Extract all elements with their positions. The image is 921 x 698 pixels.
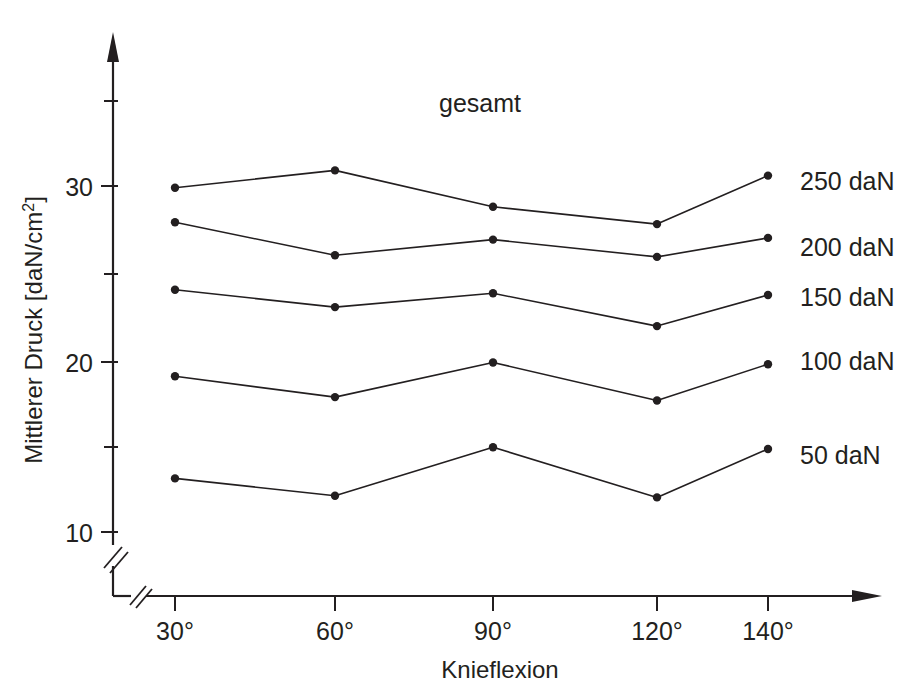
x-tick-label-60: 60° — [316, 617, 354, 645]
series-label-50-dan: 50 daN — [800, 441, 881, 469]
data-point — [653, 253, 661, 261]
data-point — [653, 493, 661, 501]
series-label-200-dan: 200 daN — [800, 233, 895, 261]
series-line-100-dan — [175, 363, 768, 401]
x-tick-label-140: 140° — [742, 617, 794, 645]
x-axis-ticks — [175, 596, 768, 611]
data-point — [171, 372, 179, 380]
y-tick-label-10: 10 — [65, 519, 93, 547]
x-tick-label-120: 120° — [631, 617, 683, 645]
data-point — [764, 291, 772, 299]
y-axis-arrowhead — [107, 32, 119, 62]
data-point — [489, 235, 497, 243]
series-line-200-dan — [175, 222, 768, 257]
y-axis-break-slash-1 — [104, 547, 122, 568]
data-point — [331, 166, 339, 174]
data-point — [171, 184, 179, 192]
series-line-150-dan — [175, 290, 768, 326]
x-tick-label-30: 30° — [156, 617, 194, 645]
chart-title: gesamt — [439, 89, 521, 117]
y-axis-ticks — [101, 101, 118, 532]
y-axis-title-superscript: 2 — [20, 203, 37, 212]
data-point — [331, 393, 339, 401]
x-axis — [113, 586, 882, 608]
data-point — [489, 289, 497, 297]
y-axis-title-main: Mittlerer Druck [daN/cm — [20, 212, 47, 464]
x-axis-arrowhead — [852, 590, 882, 602]
series-label-150-dan: 150 daN — [800, 283, 895, 311]
data-point — [331, 251, 339, 259]
data-point — [764, 171, 772, 179]
data-point — [653, 220, 661, 228]
x-axis-break-slash-1 — [130, 586, 146, 605]
y-axis-title-tail: ] — [20, 196, 47, 203]
x-tick-label-90: 90° — [474, 617, 512, 645]
data-point — [653, 322, 661, 330]
series-layer — [171, 166, 772, 501]
data-point — [764, 360, 772, 368]
data-point — [171, 474, 179, 482]
svg-text:Mittlerer Druck [daN/cm2]: Mittlerer Druck [daN/cm2] — [20, 196, 47, 464]
y-tick-label-30: 30 — [65, 173, 93, 201]
data-point — [764, 234, 772, 242]
series-label-100-dan: 100 daN — [800, 347, 895, 375]
y-axis-tick-labels: 30 20 10 — [65, 173, 93, 547]
y-axis-title: Mittlerer Druck [daN/cm2] — [20, 196, 47, 464]
data-point — [171, 286, 179, 294]
series-labels: 250 daN 200 daN 150 daN 100 daN 50 daN — [800, 167, 895, 469]
data-point — [764, 445, 772, 453]
series-line-50-dan — [175, 447, 768, 497]
data-point — [331, 303, 339, 311]
data-point — [489, 358, 497, 366]
y-tick-label-20: 20 — [65, 349, 93, 377]
chart-page: 30 20 10 30° 60° 90° 120° 140° Knieflexi… — [0, 0, 921, 698]
line-chart: 30 20 10 30° 60° 90° 120° 140° Knieflexi… — [0, 0, 921, 698]
data-point — [653, 396, 661, 404]
x-axis-tick-labels: 30° 60° 90° 120° 140° — [156, 617, 794, 645]
data-point — [331, 492, 339, 500]
series-label-250-dan: 250 daN — [800, 167, 895, 195]
data-point — [489, 203, 497, 211]
data-point — [171, 218, 179, 226]
data-point — [489, 443, 497, 451]
y-axis-break-slash-2 — [110, 552, 128, 573]
series-line-250-dan — [175, 170, 768, 224]
x-axis-title: Knieflexion — [441, 656, 558, 683]
x-axis-break-slash-2 — [136, 589, 152, 608]
y-axis — [104, 32, 128, 596]
